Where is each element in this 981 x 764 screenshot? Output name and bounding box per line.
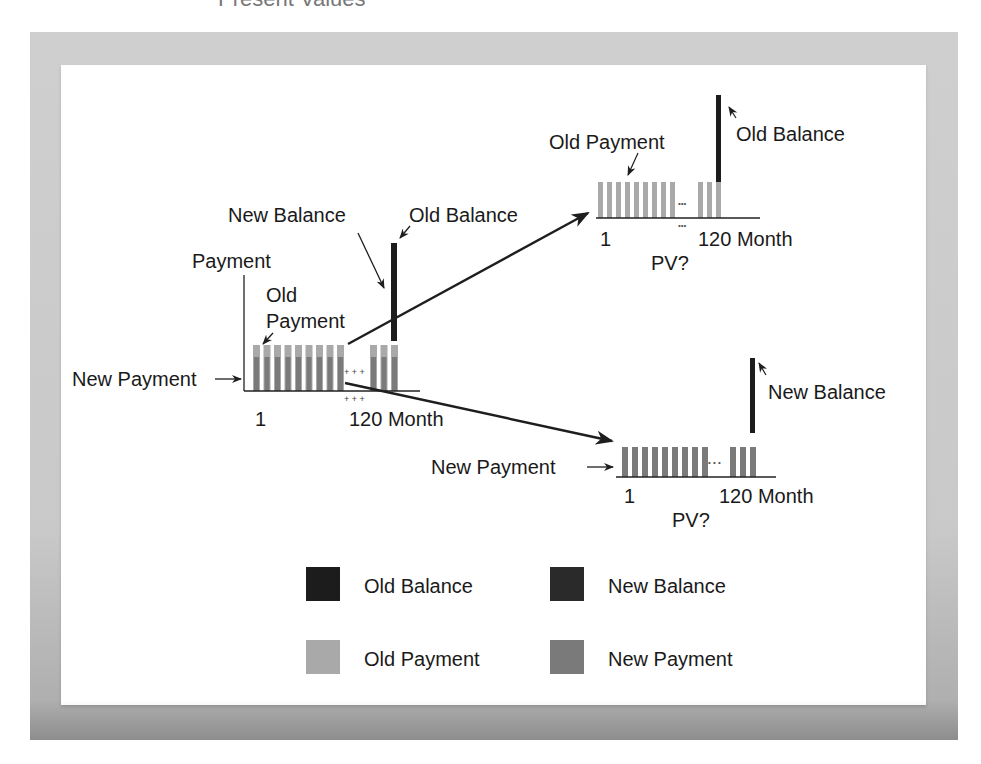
legend: Old Balance New Balance Old Payment New … <box>306 567 733 674</box>
old-balance-swatch-icon <box>306 567 340 601</box>
combined-old-payment-label-2: Payment <box>266 310 345 332</box>
combined-ellipsis-bottom: + + + <box>344 394 365 404</box>
old-payment-bar <box>598 182 603 218</box>
combined-start-tick: 1 <box>255 408 266 430</box>
new-balance-pointer-icon <box>358 233 384 288</box>
old-loan-balance-bar <box>716 95 721 182</box>
new-payment-bar <box>672 447 678 477</box>
pv-diagram: Payment Old Payment New Payment New Bala… <box>0 0 981 764</box>
old-loan-ellipsis-top: ••• <box>678 199 687 208</box>
legend-label: Old Balance <box>364 575 473 597</box>
old-loan-diagram: Old Payment Old Balance ••• ••• 1 120 Mo… <box>549 95 845 274</box>
new-payment-bar <box>371 357 376 391</box>
new-payment-bar <box>740 447 746 477</box>
old-payment-swatch-icon <box>306 640 340 674</box>
new-payment-bar <box>392 357 397 391</box>
combined-payment-bars <box>253 345 398 391</box>
combined-ellipsis-top: + + + <box>344 367 365 377</box>
combined-diagram: Payment Old Payment New Payment New Bala… <box>72 204 518 430</box>
old-payment-bar <box>616 182 621 218</box>
new-payment-bar <box>328 357 333 391</box>
old-loan-pv-label: PV? <box>651 252 689 274</box>
arrow-to-old-loan-icon <box>348 213 588 344</box>
new-payment-bar <box>662 447 668 477</box>
new-payment-bar <box>265 357 270 391</box>
old-payment-bar <box>643 182 648 218</box>
legend-label: New Balance <box>608 575 726 597</box>
new-loan-diagram: New Payment New Balance • • • 1 120 Mont… <box>431 358 886 531</box>
new-balance-swatch-icon <box>550 567 584 601</box>
old-loan-balance-label: Old Balance <box>736 123 845 145</box>
old-balance-pointer-icon <box>400 226 410 238</box>
new-payment-bar <box>307 357 312 391</box>
new-loan-balance-label: New Balance <box>768 381 886 403</box>
new-payment-bar <box>652 447 658 477</box>
new-payment-bar <box>382 357 387 391</box>
new-payment-bar <box>642 447 648 477</box>
old-payment-bar <box>625 182 630 218</box>
old-payment-bar <box>670 182 675 218</box>
new-payment-bar <box>338 357 343 391</box>
combined-new-balance-label: New Balance <box>228 204 346 226</box>
new-payment-bar <box>317 357 322 391</box>
new-payment-bar <box>286 357 291 391</box>
legend-label: Old Payment <box>364 648 480 670</box>
old-payment-bar <box>634 182 639 218</box>
new-payment-bar <box>750 447 756 477</box>
old-payment-bar <box>707 182 712 218</box>
old-loan-payment-bars <box>598 182 721 218</box>
new-loan-start-tick: 1 <box>624 485 635 507</box>
new-payment-bar <box>692 447 698 477</box>
old-payment-bar <box>607 182 612 218</box>
new-payment-bar <box>622 447 628 477</box>
combined-end-tick: 120 Month <box>349 408 444 430</box>
legend-item-old-payment: Old Payment <box>306 640 480 674</box>
old-payment-pointer-icon <box>263 333 273 344</box>
combined-old-payment-label-1: Old <box>266 284 297 306</box>
old-loan-balance-pointer-icon <box>729 107 736 118</box>
new-payment-bar <box>254 357 259 391</box>
legend-item-old-balance: Old Balance <box>306 567 473 601</box>
old-loan-end-tick: 120 Month <box>698 228 793 250</box>
new-payment-bar <box>275 357 280 391</box>
legend-item-new-payment: New Payment <box>550 640 733 674</box>
combined-old-balance-label: Old Balance <box>409 204 518 226</box>
new-loan-end-tick: 120 Month <box>719 485 814 507</box>
new-loan-ellipsis: • • • <box>708 458 721 467</box>
new-payment-swatch-icon <box>550 640 584 674</box>
combined-new-payment-label: New Payment <box>72 368 197 390</box>
old-loan-payment-label: Old Payment <box>549 131 665 153</box>
combined-balance-bar <box>391 243 397 341</box>
old-payment-bar <box>698 182 703 218</box>
old-loan-start-tick: 1 <box>600 228 611 250</box>
new-loan-payment-label: New Payment <box>431 456 556 478</box>
old-payment-bar <box>661 182 666 218</box>
new-loan-balance-bar <box>750 358 755 433</box>
legend-item-new-balance: New Balance <box>550 567 726 601</box>
old-payment-bar <box>716 182 721 218</box>
old-loan-payment-pointer-icon <box>628 153 638 175</box>
old-payment-bar <box>652 182 657 218</box>
combined-axis-label: Payment <box>192 250 271 272</box>
legend-label: New Payment <box>608 648 733 670</box>
new-payment-bar <box>682 447 688 477</box>
old-loan-ellipsis-bottom: ••• <box>678 221 687 230</box>
new-loan-pv-label: PV? <box>672 509 710 531</box>
new-payment-bar <box>632 447 638 477</box>
new-payment-bar <box>730 447 736 477</box>
new-loan-balance-pointer-icon <box>759 363 766 375</box>
new-payment-bar <box>296 357 301 391</box>
new-loan-payment-bars <box>622 447 756 477</box>
